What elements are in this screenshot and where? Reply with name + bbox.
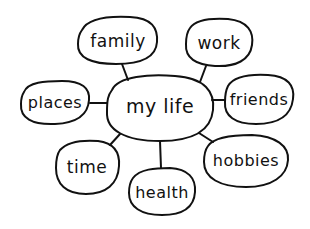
node-time-label: time — [67, 157, 107, 177]
node-family-label: family — [90, 31, 145, 51]
node-work: work — [186, 19, 252, 66]
node-my-life: my life — [107, 75, 213, 141]
node-friends-label: friends — [230, 90, 289, 109]
edge-my-life-work — [200, 66, 206, 82]
node-time: time — [56, 141, 119, 194]
node-work-label: work — [197, 33, 240, 53]
node-family: family — [78, 17, 157, 64]
mind-map-diagram: my life family work places friends time … — [0, 0, 310, 229]
edge-my-life-health — [160, 141, 161, 168]
node-friends: friends — [225, 75, 293, 124]
node-my-life-label: my life — [126, 95, 194, 117]
node-hobbies: hobbies — [204, 135, 288, 187]
node-places-label: places — [28, 93, 82, 112]
node-health-label: health — [135, 183, 189, 202]
node-places: places — [21, 81, 89, 124]
node-hobbies-label: hobbies — [213, 151, 279, 170]
edge-my-life-family — [122, 64, 128, 80]
node-health: health — [129, 168, 195, 215]
edge-my-life-hobbies — [199, 133, 213, 142]
edge-my-life-time — [110, 134, 120, 145]
